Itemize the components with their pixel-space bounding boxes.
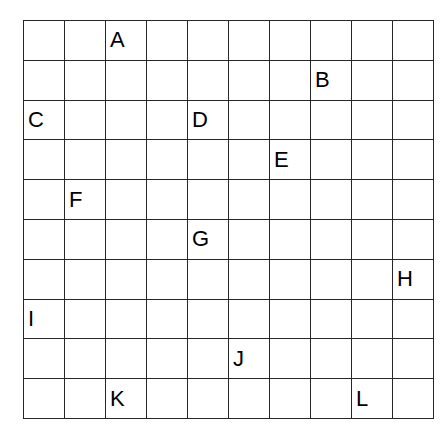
grid-cell-empty[interactable] xyxy=(106,180,147,220)
grid-cell-empty[interactable] xyxy=(270,339,311,379)
grid-cell-empty[interactable] xyxy=(24,180,65,220)
grid-cell-empty[interactable] xyxy=(270,299,311,339)
grid-cell-empty[interactable] xyxy=(229,140,270,180)
grid-cell-empty[interactable] xyxy=(188,60,229,100)
grid-cell-empty[interactable] xyxy=(106,140,147,180)
grid-cell-empty[interactable] xyxy=(106,339,147,379)
grid-cell-empty[interactable] xyxy=(270,180,311,220)
grid-cell-empty[interactable] xyxy=(24,379,65,419)
grid-cell-empty[interactable] xyxy=(270,100,311,140)
grid-cell-empty[interactable] xyxy=(352,60,393,100)
grid-cell-empty[interactable] xyxy=(311,339,352,379)
grid-cell-empty[interactable] xyxy=(24,259,65,299)
grid-cell-empty[interactable] xyxy=(106,219,147,259)
grid-cell-empty[interactable] xyxy=(24,140,65,180)
grid-cell-empty[interactable] xyxy=(65,21,106,61)
grid-cell-empty[interactable] xyxy=(65,219,106,259)
grid-cell-empty[interactable] xyxy=(24,21,65,61)
grid-cell-empty[interactable] xyxy=(65,100,106,140)
grid-cell-l[interactable]: L xyxy=(352,379,393,419)
grid-cell-empty[interactable] xyxy=(147,21,188,61)
grid-cell-empty[interactable] xyxy=(147,60,188,100)
grid-cell-empty[interactable] xyxy=(352,180,393,220)
grid-cell-empty[interactable] xyxy=(229,219,270,259)
grid-cell-empty[interactable] xyxy=(270,259,311,299)
grid-cell-empty[interactable] xyxy=(106,60,147,100)
grid-cell-empty[interactable] xyxy=(311,299,352,339)
grid-cell-empty[interactable] xyxy=(352,259,393,299)
grid-cell-empty[interactable] xyxy=(229,299,270,339)
grid-cell-empty[interactable] xyxy=(311,140,352,180)
grid-cell-empty[interactable] xyxy=(393,21,434,61)
grid-cell-empty[interactable] xyxy=(393,379,434,419)
grid-cell-empty[interactable] xyxy=(147,180,188,220)
grid-cell-empty[interactable] xyxy=(65,140,106,180)
grid-cell-empty[interactable] xyxy=(65,60,106,100)
grid-cell-h[interactable]: H xyxy=(393,259,434,299)
grid-cell-empty[interactable] xyxy=(188,299,229,339)
grid-cell-empty[interactable] xyxy=(147,379,188,419)
grid-cell-empty[interactable] xyxy=(311,100,352,140)
grid-cell-empty[interactable] xyxy=(65,339,106,379)
grid-cell-empty[interactable] xyxy=(229,60,270,100)
grid-cell-empty[interactable] xyxy=(393,100,434,140)
grid-cell-empty[interactable] xyxy=(24,339,65,379)
grid-cell-d[interactable]: D xyxy=(188,100,229,140)
grid-cell-i[interactable]: I xyxy=(24,299,65,339)
grid-cell-empty[interactable] xyxy=(352,21,393,61)
grid-cell-empty[interactable] xyxy=(229,21,270,61)
grid-cell-b[interactable]: B xyxy=(311,60,352,100)
grid-cell-empty[interactable] xyxy=(270,219,311,259)
grid-cell-empty[interactable] xyxy=(270,21,311,61)
grid-cell-empty[interactable] xyxy=(352,140,393,180)
grid-cell-empty[interactable] xyxy=(270,60,311,100)
grid-cell-empty[interactable] xyxy=(188,259,229,299)
grid-cell-empty[interactable] xyxy=(188,379,229,419)
grid-cell-empty[interactable] xyxy=(188,339,229,379)
grid-cell-empty[interactable] xyxy=(311,21,352,61)
grid-cell-empty[interactable] xyxy=(106,259,147,299)
grid-cell-empty[interactable] xyxy=(147,299,188,339)
grid-cell-empty[interactable] xyxy=(229,259,270,299)
grid-cell-empty[interactable] xyxy=(393,299,434,339)
grid-cell-empty[interactable] xyxy=(147,100,188,140)
grid-cell-g[interactable]: G xyxy=(188,219,229,259)
grid-cell-empty[interactable] xyxy=(147,219,188,259)
grid-cell-empty[interactable] xyxy=(24,219,65,259)
grid-cell-empty[interactable] xyxy=(393,180,434,220)
grid-cell-empty[interactable] xyxy=(106,299,147,339)
grid-cell-empty[interactable] xyxy=(229,180,270,220)
grid-cell-j[interactable]: J xyxy=(229,339,270,379)
grid-cell-k[interactable]: K xyxy=(106,379,147,419)
grid-cell-empty[interactable] xyxy=(106,100,147,140)
grid-cell-empty[interactable] xyxy=(352,219,393,259)
grid-cell-empty[interactable] xyxy=(229,100,270,140)
grid-cell-c[interactable]: C xyxy=(24,100,65,140)
grid-cell-empty[interactable] xyxy=(352,100,393,140)
grid-cell-empty[interactable] xyxy=(188,21,229,61)
grid-cell-a[interactable]: A xyxy=(106,21,147,61)
grid-cell-empty[interactable] xyxy=(311,180,352,220)
grid-cell-empty[interactable] xyxy=(393,339,434,379)
grid-cell-empty[interactable] xyxy=(311,379,352,419)
grid-cell-empty[interactable] xyxy=(352,339,393,379)
grid-cell-empty[interactable] xyxy=(270,379,311,419)
grid-cell-empty[interactable] xyxy=(65,259,106,299)
grid-cell-empty[interactable] xyxy=(147,339,188,379)
grid-cell-empty[interactable] xyxy=(188,180,229,220)
grid-cell-empty[interactable] xyxy=(65,379,106,419)
grid-cell-empty[interactable] xyxy=(65,299,106,339)
grid-cell-empty[interactable] xyxy=(352,299,393,339)
grid-cell-empty[interactable] xyxy=(229,379,270,419)
grid-cell-empty[interactable] xyxy=(393,140,434,180)
grid-cell-e[interactable]: E xyxy=(270,140,311,180)
grid-cell-empty[interactable] xyxy=(393,60,434,100)
grid-cell-empty[interactable] xyxy=(311,219,352,259)
grid-cell-empty[interactable] xyxy=(24,60,65,100)
grid-cell-empty[interactable] xyxy=(188,140,229,180)
grid-cell-empty[interactable] xyxy=(393,219,434,259)
grid-cell-empty[interactable] xyxy=(147,140,188,180)
grid-cell-f[interactable]: F xyxy=(65,180,106,220)
grid-cell-empty[interactable] xyxy=(147,259,188,299)
grid-cell-empty[interactable] xyxy=(311,259,352,299)
